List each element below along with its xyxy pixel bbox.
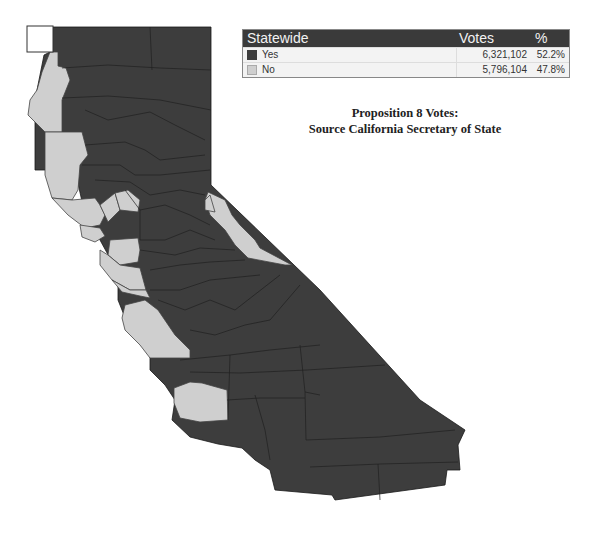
yes-swatch-icon	[247, 50, 257, 60]
map-caption: Proposition 8 Votes: Source California S…	[280, 105, 530, 137]
row-label: Yes	[262, 48, 278, 62]
row-votes: 6,321,102	[457, 48, 531, 62]
caption-source: Source California Secretary of State	[280, 121, 530, 137]
table-header: Statewide Votes %	[243, 30, 569, 47]
table-row-yes: Yes 6,321,102 52.2%	[243, 47, 569, 62]
california-county-map	[0, 0, 597, 540]
row-percent: 52.2%	[531, 48, 569, 62]
row-label: No	[262, 63, 275, 77]
caption-title: Proposition 8 Votes:	[280, 105, 530, 121]
header-votes: Votes	[459, 30, 529, 47]
row-percent: 47.8%	[531, 63, 569, 77]
statewide-results-table: Statewide Votes % Yes 6,321,102 52.2% No…	[242, 29, 570, 78]
inset-box	[27, 26, 53, 52]
row-votes: 5,796,104	[457, 63, 531, 77]
header-region: Statewide	[243, 30, 459, 47]
table-row-no: No 5,796,104 47.8%	[243, 62, 569, 77]
no-swatch-icon	[247, 65, 257, 75]
county-no-santa-barbara	[174, 382, 228, 422]
state-yes-area	[35, 27, 465, 500]
county-no-sonoma	[52, 198, 105, 228]
header-percent: %	[529, 30, 569, 47]
